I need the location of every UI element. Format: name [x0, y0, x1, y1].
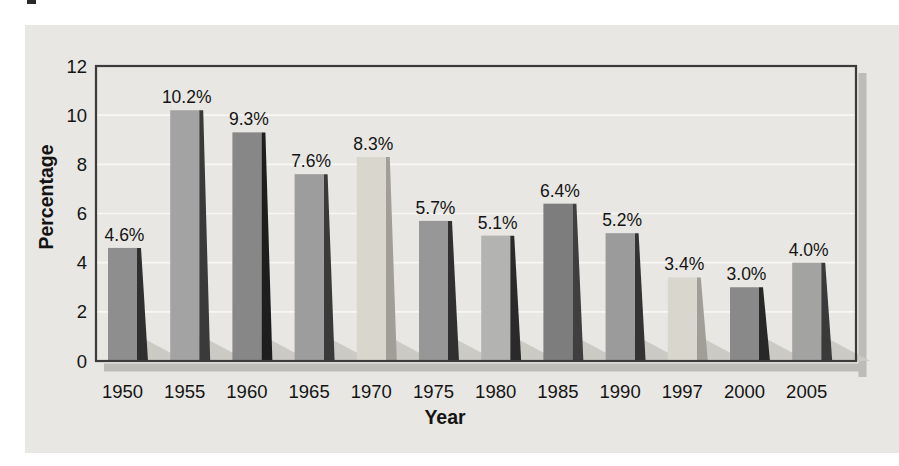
bar-face: [295, 174, 324, 361]
x-tick-label: 1975: [413, 381, 454, 402]
bar-value-label: 8.3%: [353, 134, 393, 154]
bar-face: [108, 248, 137, 361]
x-tick-label: 1990: [600, 381, 641, 402]
y-tick-label: 12: [66, 56, 87, 77]
bar-value-label: 5.1%: [478, 213, 518, 233]
frame-shadow-bottom: [104, 364, 866, 372]
bar-face: [170, 110, 199, 361]
x-tick-label: 1955: [164, 381, 205, 402]
bar-value-label: 6.4%: [540, 181, 580, 201]
bar-face: [668, 277, 697, 361]
x-tick-label: 1960: [226, 381, 267, 402]
bar-value-label: 3.0%: [727, 264, 767, 284]
y-tick-label: 8: [77, 154, 87, 175]
x-tick-label: 2000: [724, 381, 765, 402]
y-tick-label: 2: [77, 301, 87, 322]
frame-shadow-right: [859, 73, 867, 377]
y-tick-label: 10: [66, 105, 87, 126]
chart-panel: [25, 25, 899, 453]
x-tick-label: 1997: [662, 381, 703, 402]
bar-value-label: 4.0%: [789, 240, 829, 260]
bar-value-label: 9.3%: [229, 109, 269, 129]
bar-value-label: 4.6%: [105, 225, 145, 245]
x-tick-label: 1970: [351, 381, 392, 402]
bar-face: [357, 157, 386, 361]
y-axis-title: Percentage: [35, 144, 57, 249]
x-axis-title: Year: [424, 406, 466, 428]
scan-artifact: [27, 0, 36, 4]
bar-value-label: 10.2%: [162, 87, 212, 107]
bar-face: [419, 221, 448, 361]
y-tick-label: 0: [77, 351, 87, 372]
x-tick-label: 1965: [289, 381, 330, 402]
y-tick-label: 4: [77, 252, 87, 273]
y-tick-label: 6: [77, 203, 87, 224]
bar-face: [481, 236, 510, 361]
bar-face: [606, 233, 635, 361]
bar-face: [792, 263, 821, 361]
bar-value-label: 5.7%: [416, 198, 456, 218]
bar-value-label: 5.2%: [602, 210, 642, 230]
x-tick-label: 1980: [475, 381, 516, 402]
bar-value-label: 7.6%: [291, 151, 331, 171]
bar-chart: 024681012 195019551960196519701975198019…: [0, 0, 899, 466]
bar-face: [232, 132, 261, 361]
x-tick-label: 1950: [102, 381, 143, 402]
bar-value-label: 3.4%: [664, 254, 704, 274]
x-tick-label: 2005: [786, 381, 827, 402]
bar-face: [730, 287, 759, 361]
x-tick-label: 1985: [537, 381, 578, 402]
bar-face: [543, 204, 572, 361]
